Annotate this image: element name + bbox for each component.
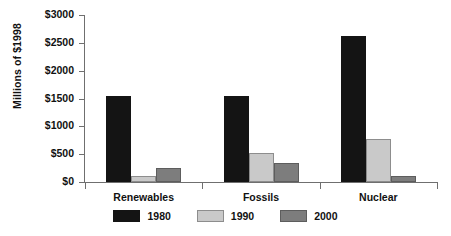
- bar-renewables-2000[interactable]: [156, 168, 181, 182]
- x-tick: [320, 183, 321, 189]
- legend-swatch-1980: [113, 210, 140, 222]
- bar-group-fossils: [224, 15, 299, 182]
- x-tick: [85, 183, 86, 189]
- y-tick-label: $500: [14, 147, 74, 159]
- plot-area: [85, 15, 437, 182]
- x-label-fossils: Fossils: [201, 191, 321, 203]
- x-tick: [437, 183, 438, 189]
- bar-fossils-1990[interactable]: [249, 153, 274, 182]
- y-tick-label: $0: [14, 175, 74, 187]
- bar-nuclear-2000[interactable]: [391, 176, 416, 182]
- legend-item-1980[interactable]: 1980: [113, 210, 170, 222]
- legend-item-1990[interactable]: 1990: [197, 210, 254, 222]
- x-axis-line: [84, 182, 438, 183]
- legend-label-2000: 2000: [314, 210, 337, 222]
- bar-nuclear-1980[interactable]: [341, 36, 366, 182]
- bar-renewables-1990[interactable]: [131, 176, 156, 182]
- y-tick-label: $2000: [14, 64, 74, 76]
- legend-label-1990: 1990: [231, 210, 254, 222]
- x-tick: [202, 183, 203, 189]
- y-tick-label: $1500: [14, 92, 74, 104]
- y-tick-label: $1000: [14, 119, 74, 131]
- legend-item-2000[interactable]: 2000: [280, 210, 337, 222]
- y-tick-label: $3000: [14, 8, 74, 20]
- bar-fossils-1980[interactable]: [224, 96, 249, 182]
- bar-group-nuclear: [341, 15, 416, 182]
- bar-fossils-2000[interactable]: [274, 163, 299, 182]
- x-label-renewables: Renewables: [84, 191, 204, 203]
- legend-label-1980: 1980: [147, 210, 170, 222]
- y-tick-label: $2500: [14, 36, 74, 48]
- legend-swatch-2000: [280, 210, 307, 222]
- bar-group-renewables: [106, 15, 181, 182]
- legend-swatch-1990: [197, 210, 224, 222]
- bar-renewables-1980[interactable]: [106, 96, 131, 182]
- x-label-nuclear: Nuclear: [318, 191, 438, 203]
- bar-chart: Millions of $1998 $0$500$1000$1500$2000$…: [0, 0, 451, 236]
- bar-nuclear-1990[interactable]: [366, 139, 391, 182]
- chart-legend: 1980 1990 2000: [0, 210, 451, 222]
